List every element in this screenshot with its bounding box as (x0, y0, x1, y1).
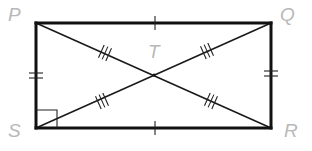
vertex-label-r: R (284, 120, 298, 141)
triple-tick-pt (98, 45, 111, 61)
vertex-label-p: P (8, 4, 21, 25)
triple-tick-st (95, 93, 108, 109)
triple-tick-rt (204, 93, 217, 109)
intersection-label-t: T (148, 41, 161, 62)
vertex-label-q: Q (280, 4, 295, 25)
intersection-point-t (152, 73, 155, 76)
vertex-label-s: S (8, 120, 21, 141)
rectangle-diagram: P Q S R T (0, 0, 312, 151)
triple-tick-qt (200, 43, 213, 59)
right-angle-mark-s (36, 110, 57, 128)
